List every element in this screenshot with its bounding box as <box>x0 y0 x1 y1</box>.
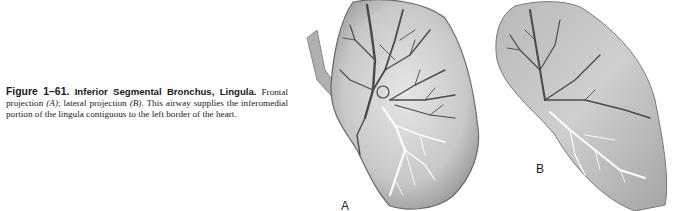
figure-title-text: Inferior Segmental Bronchus, Lingula. <box>75 86 257 97</box>
panel-b-illustration <box>485 0 695 211</box>
caption-ref-b: (B) <box>130 98 142 108</box>
panel-a-illustration <box>295 0 495 211</box>
figure-title: Figure 1–61. Inferior Segmental Bronchus… <box>6 86 256 97</box>
figure-caption: Figure 1–61. Inferior Segmental Bronchus… <box>6 86 288 120</box>
lung-frontal-icon <box>295 0 495 211</box>
panel-label-b: B <box>536 162 544 176</box>
figure-number: Figure 1–61. <box>6 86 69 97</box>
panel-label-a: A <box>341 199 349 211</box>
caption-text: ; lateral projection <box>58 98 130 108</box>
caption-ref-a: (A) <box>46 98 58 108</box>
lung-lateral-icon <box>485 0 695 211</box>
